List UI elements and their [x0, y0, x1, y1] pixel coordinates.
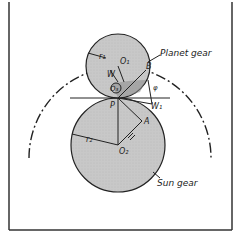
- p-label: P: [110, 101, 115, 110]
- planetary-gear-diagram: Planet gear Sun gear r₁ r₂ O₁ O₂ O₃ W W₁…: [0, 0, 237, 236]
- r2-label: r₂: [86, 135, 93, 144]
- phi-line: [148, 80, 152, 104]
- planet-gear-leader: [148, 55, 160, 62]
- planet-gear-label: Planet gear: [160, 48, 213, 58]
- r1-label: r₁: [99, 52, 106, 61]
- o2-label: O₂: [119, 147, 129, 156]
- w-label: W: [107, 70, 116, 79]
- w1-label: W₁: [151, 102, 162, 111]
- phi-label: φ: [153, 84, 158, 92]
- o3-label: O₃: [110, 85, 119, 93]
- sun-gear-label: Sun gear: [157, 178, 199, 188]
- a-label: A: [143, 117, 149, 126]
- b-label: B: [146, 62, 152, 71]
- o1-label: O₁: [120, 57, 130, 66]
